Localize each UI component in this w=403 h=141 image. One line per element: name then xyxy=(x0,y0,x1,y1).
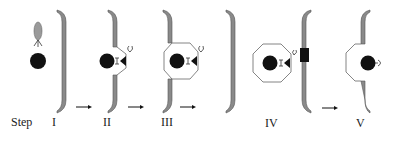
step-5-group xyxy=(346,10,381,113)
membrane-4-left-icon xyxy=(226,10,235,113)
step-label-5: V xyxy=(356,116,365,130)
receptor-legs-icon xyxy=(34,40,42,47)
step-4-group xyxy=(226,10,311,113)
particle-icon xyxy=(30,53,46,69)
arrow-3-to-4-icon xyxy=(180,105,196,109)
receptor-fork-icon xyxy=(199,46,204,52)
step-1-group xyxy=(30,10,66,113)
step-3-group xyxy=(163,10,204,113)
row-label-step: Step xyxy=(11,115,32,129)
step-2-group xyxy=(100,10,133,113)
membrane-3-upper-icon xyxy=(163,10,172,43)
particle-icon xyxy=(361,56,376,71)
particle-icon xyxy=(263,56,278,71)
receptor-fork-icon xyxy=(128,46,133,52)
particle-icon xyxy=(170,54,185,69)
membrane-1-icon xyxy=(57,10,66,113)
membrane-5-upper-icon xyxy=(361,10,370,44)
step-label-2: II xyxy=(103,115,111,129)
receptor-ellipsoid-icon xyxy=(34,22,42,40)
fusion-pocket-icon xyxy=(346,44,361,81)
receptor-fork-icon xyxy=(293,50,297,55)
membrane-2-upper-icon xyxy=(108,10,117,47)
step-label-1: I xyxy=(52,115,56,129)
arrow-4-to-5-icon xyxy=(322,106,338,110)
membrane-5-lower-icon xyxy=(361,81,370,113)
docking-block-icon xyxy=(300,48,309,62)
step-label-4: IV xyxy=(265,116,278,130)
receptor-hook-icon xyxy=(375,60,381,66)
arrow-2-to-3-icon xyxy=(128,105,144,109)
membrane-2-lower-icon xyxy=(108,75,117,113)
membrane-3-lower-icon xyxy=(163,79,172,113)
endocytosis-transcytosis-diagram: Step I II III IV V xyxy=(0,0,403,141)
particle-icon xyxy=(100,54,115,69)
step-label-3: III xyxy=(161,115,173,129)
arrow-1-to-2-icon xyxy=(76,105,92,109)
